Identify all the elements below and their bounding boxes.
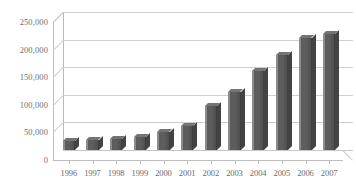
bar-side-face [335, 30, 339, 150]
bar[interactable] [323, 34, 335, 150]
bar[interactable] [205, 106, 217, 150]
bar-side-face [264, 67, 268, 150]
bar[interactable] [252, 71, 264, 150]
bar-front-face [205, 106, 217, 150]
x-axis-tick-label: 2007 [313, 168, 345, 178]
bar-front-face [110, 139, 122, 150]
y-axis: 050,000100,000150,000200,000250,000 [2, 0, 48, 193]
bar[interactable] [86, 140, 98, 150]
x-axis-tick [116, 160, 117, 164]
x-axis-tick [306, 160, 307, 164]
bar-top-face [205, 103, 220, 106]
bar[interactable] [63, 141, 75, 150]
bar[interactable] [276, 55, 288, 150]
bar[interactable] [181, 126, 193, 150]
bar-front-face [157, 132, 169, 150]
bar-front-face [276, 55, 288, 150]
bar-front-face [181, 126, 193, 150]
bar-front-face [323, 34, 335, 150]
y-axis-tick-label: 0 [2, 156, 48, 165]
x-axis-tick [211, 160, 212, 164]
x-axis-tick [235, 160, 236, 164]
y-axis-tick-label: 50,000 [2, 128, 48, 137]
bar[interactable] [110, 139, 122, 150]
bar[interactable] [134, 137, 146, 150]
x-axis-tick [258, 160, 259, 164]
bar-side-face [312, 34, 316, 150]
x-axis-tick [69, 160, 70, 164]
bar-side-face [288, 51, 292, 150]
y-axis-tick-label: 100,000 [2, 100, 48, 109]
bar-side-face [193, 122, 197, 150]
bar[interactable] [157, 132, 169, 150]
y-axis-tick-label: 250,000 [2, 18, 48, 27]
y-axis-tick-label: 150,000 [2, 73, 48, 82]
y-axis-tick-label: 200,000 [2, 45, 48, 54]
x-axis-tick [329, 160, 330, 164]
x-axis-tick [93, 160, 94, 164]
bar-front-face [252, 71, 264, 150]
bar-series [53, 12, 353, 160]
bar-front-face [134, 137, 146, 150]
x-axis-tick [164, 160, 165, 164]
bar[interactable] [228, 92, 240, 150]
x-axis-tick [187, 160, 188, 164]
bar-side-face [241, 88, 245, 150]
bar-top-face [276, 52, 291, 55]
bar-chart: 050,000100,000150,000200,000250,000 1996… [0, 0, 356, 193]
x-axis: 1996199719981999200020012002200320042005… [53, 168, 353, 182]
bar-side-face [170, 128, 174, 150]
x-axis-ticks [53, 160, 353, 166]
bar-side-face [217, 102, 221, 150]
bar-front-face [86, 140, 98, 150]
x-axis-tick [282, 160, 283, 164]
bar-front-face [63, 141, 75, 150]
x-axis-tick [140, 160, 141, 164]
bar-front-face [299, 38, 311, 150]
bar[interactable] [299, 38, 311, 150]
plot-area [53, 12, 353, 160]
bar-front-face [228, 92, 240, 150]
